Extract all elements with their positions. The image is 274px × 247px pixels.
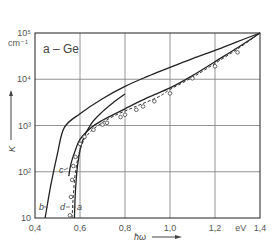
curve-label-a: a xyxy=(77,202,82,212)
y-tick-label: 10² xyxy=(18,167,31,177)
data-point-marker xyxy=(74,155,78,159)
x-tick-label: 1,2 xyxy=(209,223,222,233)
data-point-marker xyxy=(213,65,217,69)
data-point-marker xyxy=(141,105,145,109)
data-point-marker xyxy=(68,214,72,218)
y-tick-label: 10³ xyxy=(18,121,31,131)
curve-label-c: c xyxy=(59,165,64,175)
curve-label-b: b xyxy=(39,202,44,212)
absorption-chart: 0,40,60,81,01,2eV1,4 1010²10³10⁴10⁵ cm⁻¹… xyxy=(0,0,274,247)
curve-label-d: d xyxy=(60,202,66,212)
y-tick-labels: 1010²10³10⁴10⁵ xyxy=(17,28,31,223)
data-points xyxy=(68,51,239,218)
y-arrow-head-icon xyxy=(9,90,13,96)
grid-lines xyxy=(35,33,260,218)
data-point-marker xyxy=(123,113,127,117)
x-tick-label: 0,4 xyxy=(29,223,42,233)
data-point-marker xyxy=(83,135,87,139)
y-axis-title: K xyxy=(7,145,17,152)
x-tick-label: eV xyxy=(235,223,246,233)
data-point-marker xyxy=(191,77,195,81)
y-tick-label: 10⁵ xyxy=(17,28,31,38)
data-point-marker xyxy=(105,121,109,125)
data-point-marker xyxy=(92,128,96,132)
data-point-marker xyxy=(153,100,157,104)
data-point-marker xyxy=(78,142,82,146)
data-point-marker xyxy=(72,164,76,168)
x-tick-label: 0,8 xyxy=(119,223,132,233)
data-point-marker xyxy=(69,195,73,199)
x-tick-labels: 0,40,60,81,01,2eV1,4 xyxy=(29,223,267,233)
y-tick-label: 10⁴ xyxy=(17,74,31,84)
data-point-marker xyxy=(119,115,123,119)
x-axis-label: ħω xyxy=(134,232,182,242)
y-axis-label: K xyxy=(7,90,17,152)
x-tick-label: 1,0 xyxy=(164,223,177,233)
y-tick-label: 10 xyxy=(21,213,31,223)
data-point-marker xyxy=(135,108,139,112)
data-point-marker xyxy=(101,123,105,127)
x-arrow-head-icon xyxy=(175,235,182,239)
x-tick-label: 1,4 xyxy=(254,223,267,233)
label-leader-line xyxy=(64,168,68,170)
x-tick-label: 0,6 xyxy=(74,223,87,233)
chart-title: a – Ge xyxy=(43,42,79,56)
data-point-marker xyxy=(236,51,240,55)
data-point-marker xyxy=(70,178,74,182)
x-axis-title: ħω xyxy=(134,232,146,242)
data-point-marker xyxy=(168,92,172,96)
y-unit-label: cm⁻¹ xyxy=(8,38,28,48)
curve-c xyxy=(69,33,260,176)
